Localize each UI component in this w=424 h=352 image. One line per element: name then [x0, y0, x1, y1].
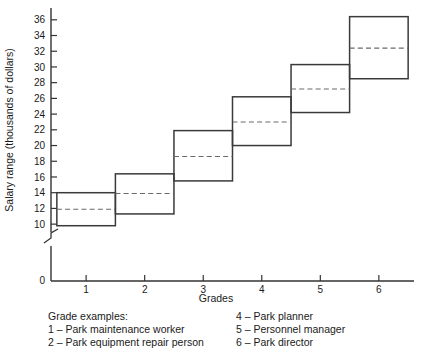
legend-item-left-2: 2 – Park equipment repair person — [48, 336, 204, 348]
y-tick-label: 24 — [34, 109, 46, 120]
y-axis-title: Salary range (thousands of dollars) — [3, 48, 15, 211]
legend-item-right-2: 5 – Personnel manager — [236, 323, 346, 335]
legend-item-left-1: 1 – Park maintenance worker — [48, 323, 185, 335]
y-tick-label: 14 — [34, 187, 46, 198]
y-tick-label: 36 — [34, 14, 46, 25]
box-group — [57, 17, 408, 226]
y-tick-label: 12 — [34, 203, 46, 214]
y-tick-label: 10 — [34, 219, 46, 230]
y-tick-label: 28 — [34, 77, 46, 88]
x-tick-label: 1 — [83, 284, 89, 295]
salary-range-chart: Salary range (thousands of dollars) 1012… — [0, 0, 424, 352]
y-tick-label: 26 — [34, 93, 46, 104]
x-tick-label: 4 — [259, 284, 265, 295]
y-tick-label: 18 — [34, 156, 46, 167]
chart-svg: Salary range (thousands of dollars) 1012… — [0, 0, 424, 352]
y-tick-label-zero: 0 — [39, 275, 45, 286]
y-tick-label: 16 — [34, 172, 46, 183]
axes — [44, 8, 414, 281]
x-tick-label: 2 — [142, 284, 148, 295]
x-axis-title: Grades — [199, 292, 233, 304]
y-tick-label: 34 — [34, 30, 46, 41]
legend-item-right-1: 4 – Park planner — [236, 310, 314, 322]
salary-range-box — [233, 97, 292, 146]
legend-heading: Grade examples: — [48, 310, 128, 322]
legend: Grade examples: 1 – Park maintenance wor… — [48, 310, 346, 348]
y-tick-label: 22 — [34, 124, 46, 135]
x-tick-label: 5 — [318, 284, 324, 295]
y-tick-group: 10121416182022242628303234360 — [34, 14, 57, 286]
legend-item-right-3: 6 – Park director — [236, 336, 314, 348]
y-tick-label: 30 — [34, 62, 46, 73]
salary-range-box — [174, 131, 233, 181]
x-tick-label: 6 — [376, 284, 382, 295]
y-tick-label: 32 — [34, 46, 46, 57]
y-tick-label: 20 — [34, 140, 46, 151]
